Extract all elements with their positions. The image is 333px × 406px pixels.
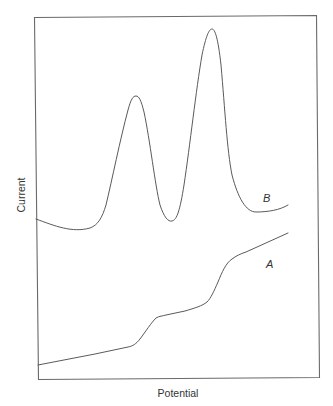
chart-canvas: B A Potential Current — [0, 0, 333, 406]
x-axis-label: Potential — [158, 387, 199, 399]
y-axis-label: Current — [15, 177, 27, 212]
series-label-a: A — [265, 258, 273, 270]
curve-a — [38, 233, 288, 365]
curve-b — [36, 29, 288, 230]
series-label-b: B — [263, 192, 270, 204]
plot-frame — [35, 16, 320, 380]
